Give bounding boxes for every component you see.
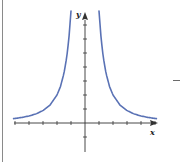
curve-left-branch (14, 11, 71, 119)
x-axis-label: x (149, 127, 155, 137)
y-axis-label: y (75, 9, 82, 19)
function-plot: y x (0, 0, 180, 162)
curve-right-branch (99, 11, 156, 119)
x-axis-arrow-icon (150, 120, 158, 126)
axes (14, 12, 158, 152)
y-axis-arrow-icon (82, 12, 88, 20)
